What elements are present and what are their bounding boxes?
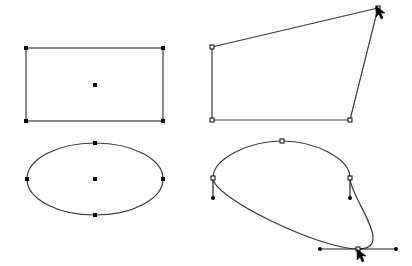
anchor-handle[interactable] (348, 176, 352, 180)
vertex-handle[interactable] (210, 45, 214, 49)
drawing-canvas[interactable] (0, 0, 412, 266)
ellipse-handle[interactable] (93, 141, 97, 145)
ellipse-handle[interactable] (161, 177, 165, 181)
anchor-handle[interactable] (211, 176, 215, 180)
anchor-handle[interactable] (280, 139, 284, 143)
control-point[interactable] (348, 196, 352, 200)
quadrilateral-shape[interactable] (210, 6, 380, 122)
arrow-cursor-bezier-icon (357, 249, 366, 262)
ellipse-handle[interactable] (25, 177, 29, 181)
control-point[interactable] (394, 247, 398, 251)
corner-handle[interactable] (161, 46, 165, 50)
ellipse-shape[interactable] (25, 141, 165, 217)
ellipse-handle[interactable] (93, 213, 97, 217)
control-point[interactable] (318, 247, 322, 251)
polygon-outline[interactable] (212, 8, 378, 120)
corner-handle[interactable] (24, 46, 28, 50)
bezier-shape[interactable] (211, 139, 398, 251)
corner-handle[interactable] (24, 119, 28, 123)
center-handle[interactable] (93, 177, 97, 181)
bezier-path[interactable] (213, 141, 373, 249)
corner-handle[interactable] (161, 119, 165, 123)
rectangle-shape[interactable] (24, 46, 165, 123)
control-point[interactable] (211, 196, 215, 200)
cursor-layer (357, 6, 385, 262)
drawing-surface[interactable] (0, 0, 412, 266)
center-handle[interactable] (93, 83, 97, 87)
vertex-handle[interactable] (348, 118, 352, 122)
vertex-handle[interactable] (210, 118, 214, 122)
